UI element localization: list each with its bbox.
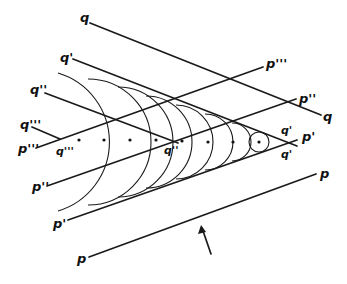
label-p-right: p (319, 166, 329, 181)
line-p-prime (68, 140, 297, 220)
label-p-double-prime-left: p'' (31, 179, 49, 194)
label-q-top: q (80, 10, 89, 25)
label-q-prime-vertex-upper: q' (281, 124, 292, 137)
label-p-double-prime-right: p'' (298, 91, 316, 106)
label-q-prime-left: q' (60, 50, 73, 65)
line-p (89, 174, 316, 257)
label-p-prime-vertex: p' (301, 129, 315, 144)
label-p-triple-prime-left: p''' (17, 141, 39, 156)
label-p-triple-prime-right: p''' (265, 56, 287, 71)
label-q-triple-prime-left: q''' (20, 117, 41, 132)
line-p-triple-prime (36, 67, 263, 148)
label-q-double-prime-left: q'' (30, 82, 47, 97)
label-q-right: q (323, 109, 332, 124)
line-q-double-prime (45, 93, 178, 143)
label-p-left: p (76, 251, 86, 266)
label-q-double-prime-mid: q'' (164, 144, 179, 157)
label-q-prime-vertex-lower: q' (281, 148, 292, 161)
propagation-arrow-icon (198, 225, 211, 254)
huygens-diagram: q q q' q'' q''' q''' q'' q' q' p' p''' p… (0, 0, 347, 284)
label-q-triple-prime-mid: q''' (56, 145, 74, 158)
label-p-prime-left: p' (52, 216, 66, 231)
